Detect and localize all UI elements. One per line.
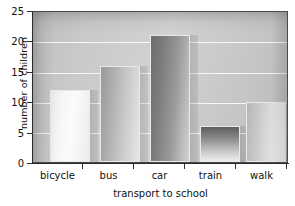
x-tick-mark-2: [133, 164, 134, 169]
x-tick-mark-1: [82, 164, 83, 169]
y-tick-label-25: 25: [4, 7, 24, 17]
bar-chart: number of children 25 20 15 10 5 0: [0, 0, 295, 206]
y-tick-label-0: 0: [4, 159, 24, 169]
bar-group-bicycle: [50, 90, 90, 162]
x-tick-label-bus: bus: [83, 170, 134, 182]
x-tick-mark-5: [286, 164, 287, 169]
bar-car[interactable]: [150, 35, 190, 162]
x-axis-title: transport to school: [32, 188, 289, 200]
x-tick-label-bicycle: bicycle: [32, 170, 83, 182]
bar-train[interactable]: [200, 126, 240, 162]
x-tick-label-car: car: [134, 170, 185, 182]
bar-bus[interactable]: [100, 66, 140, 162]
x-axis-line: [32, 163, 289, 164]
bar-walk[interactable]: [246, 102, 286, 162]
x-tick-label-train: train: [185, 170, 236, 182]
x-tick-mark-3: [184, 164, 185, 169]
bar-bicycle[interactable]: [50, 90, 90, 162]
bar-group-car: [150, 35, 190, 162]
y-tick-label-20: 20: [4, 37, 24, 47]
bar-group-train: [200, 126, 240, 162]
bar-group-bus: [100, 66, 140, 162]
y-axis-line: [32, 11, 33, 164]
y-tick-label-15: 15: [4, 68, 24, 78]
y-tick-label-5: 5: [4, 129, 24, 139]
x-tick-mark-4: [235, 164, 236, 169]
bar-group-walk: [246, 102, 286, 162]
y-axis-tick-labels: 25 20 15 10 5 0: [2, 0, 24, 206]
plot-area: [32, 11, 288, 163]
x-tick-label-walk: walk: [236, 170, 287, 182]
y-tick-label-10: 10: [4, 98, 24, 108]
